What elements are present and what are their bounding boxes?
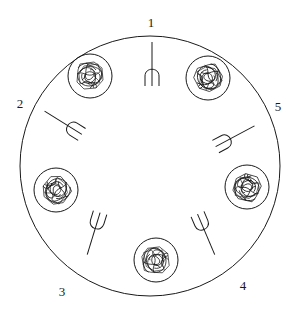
plate-rim: [225, 165, 269, 209]
forks-group: [41, 42, 258, 257]
plate-rim: [134, 238, 178, 282]
plate-rim: [186, 56, 230, 100]
spaghetti-icon: [77, 62, 103, 89]
seat-label-1: 1: [148, 16, 155, 29]
fork-3-icon: [81, 211, 107, 257]
seat-label-5: 5: [275, 100, 282, 113]
plate-right: [225, 165, 269, 209]
plate-left: [34, 168, 78, 212]
spaghetti-icon: [38, 172, 75, 209]
fork-4-icon: [191, 211, 221, 257]
spaghetti-icon: [142, 247, 170, 274]
seat-label-4: 4: [240, 279, 247, 292]
dining-philosophers-diagram: [0, 0, 299, 310]
plate-rim: [68, 54, 112, 98]
spaghetti-icon: [230, 170, 264, 205]
plate-bottom: [134, 238, 178, 282]
fork-2-icon: [41, 105, 86, 140]
fork-5-icon: [212, 120, 257, 153]
plate-upper-left: [68, 54, 112, 98]
plates-group: [34, 54, 269, 282]
spaghetti-icon: [191, 61, 226, 95]
plate-upper-right: [186, 56, 230, 100]
fork-1-icon: [145, 42, 159, 86]
seat-label-2: 2: [17, 97, 24, 110]
plate-rim: [34, 168, 78, 212]
seat-label-3: 3: [59, 285, 66, 298]
